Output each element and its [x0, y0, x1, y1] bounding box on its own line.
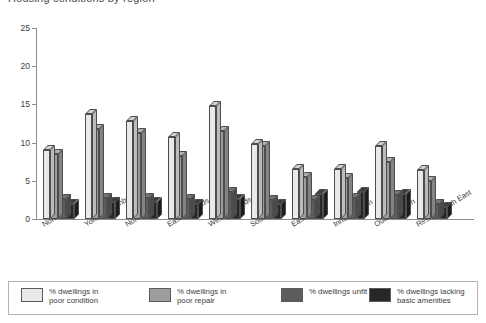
legend-label: % dwellings lacking basic amenities: [397, 287, 465, 305]
bar-front-face: [85, 114, 92, 219]
y-axis-tick-label: 15: [21, 99, 30, 109]
bar: [417, 170, 424, 219]
legend-swatch: [149, 288, 171, 302]
bar-front-face: [168, 137, 175, 220]
bar-side-face: [341, 164, 346, 219]
bar-side-face: [424, 165, 429, 219]
chart-legend: % dwellings in poor condition% dwellings…: [8, 281, 478, 315]
bar-side-face: [348, 173, 353, 219]
bar: [209, 106, 216, 219]
bar-side-face: [364, 187, 369, 219]
bar-front-face: [209, 106, 216, 219]
bar-front-face: [375, 146, 382, 219]
bar-front-face: [43, 150, 50, 219]
bar-side-face: [258, 139, 263, 219]
bar: [168, 137, 175, 220]
bar-side-face: [323, 189, 328, 219]
bar: [251, 144, 258, 219]
bar-side-face: [431, 176, 436, 219]
bar-side-face: [133, 116, 138, 219]
y-axis-tick-label: 0: [25, 214, 30, 224]
legend-item[interactable]: % dwellings in poor condition: [21, 287, 98, 305]
bar-front-face: [334, 169, 341, 219]
bar-side-face: [240, 194, 245, 219]
bar-side-face: [224, 126, 229, 219]
bar-side-face: [182, 151, 187, 219]
bar-side-face: [99, 124, 104, 219]
bar-side-face: [307, 172, 312, 219]
bar-front-face: [417, 170, 424, 219]
chart-title-clipped: Housing conditions by region: [0, 0, 486, 9]
plot-area: 0510152025: [36, 28, 474, 220]
bar-front-face: [251, 144, 258, 219]
bar: [334, 169, 341, 219]
bar-side-face: [265, 141, 270, 219]
bar: [292, 169, 299, 219]
legend-item[interactable]: % dwellings unfit: [281, 287, 367, 302]
bar-front-face: [126, 121, 133, 219]
legend-label: % dwellings in poor repair: [177, 287, 226, 305]
bar-side-face: [141, 128, 146, 219]
bar-side-face: [175, 132, 180, 220]
bar-side-face: [216, 101, 221, 219]
bar-side-face: [299, 164, 304, 219]
bar-side-face: [406, 189, 411, 219]
legend-item[interactable]: % dwellings in poor repair: [149, 287, 226, 305]
y-axis-tick-label: 10: [21, 138, 30, 148]
legend-label: % dwellings in poor condition: [49, 287, 98, 305]
bar-side-face: [92, 109, 97, 219]
legend-item[interactable]: % dwellings lacking basic amenities: [369, 287, 465, 305]
bars-layer: [36, 28, 474, 220]
bar-side-face: [58, 149, 63, 219]
y-axis-tick-label: 20: [21, 61, 30, 71]
page-title: Housing conditions by region: [8, 0, 155, 4]
legend-label: % dwellings unfit: [309, 287, 367, 296]
bar-side-face: [382, 141, 387, 219]
legend-swatch: [369, 288, 391, 302]
y-axis-tick-label: 25: [21, 23, 30, 33]
y-axis-tick-label: 5: [25, 176, 30, 186]
bar-front-face: [292, 169, 299, 219]
chart-figure: Housing conditions by region 0510152025 …: [0, 0, 486, 323]
bar: [85, 114, 92, 219]
x-axis-category-labels: NorthernYorks & HumbersideNorth WestEast…: [36, 222, 474, 274]
bar-side-face: [232, 187, 237, 219]
legend-swatch: [21, 288, 43, 302]
bar-side-face: [390, 157, 395, 219]
bar: [43, 150, 50, 219]
bar-side-face: [50, 145, 55, 219]
bar: [126, 121, 133, 219]
bar: [375, 146, 382, 219]
legend-swatch: [281, 288, 303, 302]
